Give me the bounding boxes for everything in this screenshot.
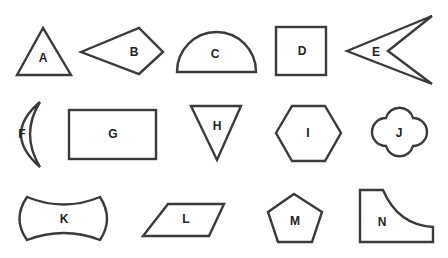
shape-n: N — [360, 190, 433, 242]
shape-j: J — [372, 108, 427, 157]
shape-m: M — [268, 194, 322, 242]
shapes-diagram: A B C D E F G H I J — [0, 0, 448, 258]
shape-g: G — [69, 110, 156, 159]
label-n: N — [378, 215, 387, 229]
shape-c: C — [177, 32, 256, 72]
shape-k: K — [20, 197, 108, 240]
label-j: J — [396, 126, 403, 140]
shape-b: B — [81, 28, 163, 74]
shape-e: E — [347, 16, 432, 84]
label-i: I — [306, 126, 309, 140]
shape-h: H — [191, 106, 241, 160]
label-h: H — [213, 119, 222, 133]
label-b: B — [130, 45, 139, 59]
label-f: F — [18, 127, 25, 141]
shape-i: I — [276, 106, 341, 161]
label-e: E — [372, 45, 380, 59]
label-d: D — [298, 44, 307, 58]
shape-d: D — [276, 27, 326, 75]
shape-f: F — [18, 102, 40, 167]
label-m: M — [290, 214, 300, 228]
label-l: L — [182, 212, 189, 226]
shape-l: L — [143, 204, 224, 236]
shape-a: A — [17, 28, 71, 75]
label-c: C — [211, 47, 220, 61]
label-k: K — [60, 212, 69, 226]
label-a: A — [39, 51, 48, 65]
label-g: G — [108, 127, 117, 141]
